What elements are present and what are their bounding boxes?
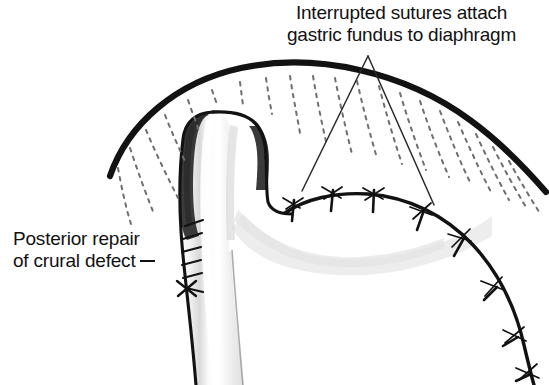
anatomy-drawing (0, 0, 549, 385)
annotation-interrupted-sutures: Interrupted sutures attach gastric fundu… (287, 2, 516, 46)
annotation-line-1: Interrupted sutures attach (287, 2, 516, 24)
suture-mark (363, 188, 384, 212)
annotation-line-2: of crural defect (13, 250, 135, 271)
suture-mark (322, 187, 342, 211)
annotation-line-2-wrap: of crural defect (13, 250, 155, 272)
annotation-line-1: Posterior repair (13, 228, 155, 250)
gastric-fundus (285, 194, 534, 385)
medical-illustration-figure: Interrupted sutures attach gastric fundu… (0, 0, 549, 385)
suture-label-leader-lines (302, 56, 434, 205)
leader-dash (140, 260, 155, 262)
annotation-posterior-crural-repair: Posterior repair of crural defect (13, 228, 155, 272)
annotation-line-2: gastric fundus to diaphragm (287, 24, 516, 46)
